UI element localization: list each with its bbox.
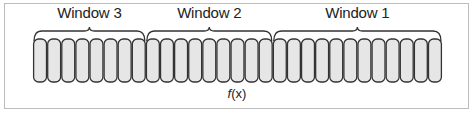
series-cell — [330, 39, 343, 82]
series-cell — [414, 39, 427, 82]
series-cell — [104, 39, 117, 82]
series-cell — [259, 39, 272, 82]
series-cell — [62, 39, 75, 82]
window-2-label: Window 2 — [177, 4, 241, 21]
function-label: f(x) — [228, 86, 247, 101]
window-3-label: Window 3 — [57, 4, 121, 21]
series-cell — [217, 39, 230, 82]
window-1-label: Window 1 — [325, 4, 389, 21]
function-arg: (x) — [231, 86, 246, 101]
series-cell — [344, 39, 357, 82]
series-cell — [132, 39, 145, 82]
series-cell — [316, 39, 329, 82]
series-cell — [48, 39, 61, 82]
series-cell — [428, 39, 441, 82]
series-cell — [189, 39, 202, 82]
series-cell — [273, 39, 286, 82]
series-cell — [386, 39, 399, 82]
series-cell — [245, 39, 258, 82]
series-cell — [203, 39, 216, 82]
series-cell — [90, 39, 103, 82]
series-cell — [231, 39, 244, 82]
window-brace — [274, 27, 441, 41]
series-cell — [400, 39, 413, 82]
series-cell — [287, 39, 300, 82]
series-cell — [372, 39, 385, 82]
series-cell — [358, 39, 371, 82]
series-cell — [118, 39, 131, 82]
series-cell — [175, 39, 188, 82]
series-cell — [302, 39, 315, 82]
series-cell — [146, 39, 159, 82]
series-cell — [76, 39, 89, 82]
series-cell — [161, 39, 174, 82]
series-cell — [34, 39, 47, 82]
